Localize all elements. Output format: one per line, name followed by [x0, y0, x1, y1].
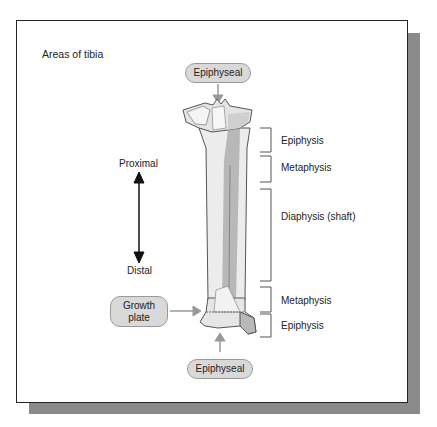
epiphyseal-callout-top-label: Epiphyseal	[194, 67, 243, 78]
region-label-epiphysis-bottom: Epiphysis	[281, 320, 324, 331]
distal-label: Distal	[127, 265, 152, 276]
region-label-metaphysis-bottom: Metaphysis	[281, 295, 332, 306]
region-label-metaphysis-top: Metaphysis	[281, 162, 332, 173]
proximal-label: Proximal	[119, 158, 158, 169]
epiphyseal-callout-bottom-label: Epiphyseal	[196, 363, 245, 374]
growth-plate-callout: Growth plate	[110, 296, 168, 327]
diagram-title: Areas of tibia	[42, 48, 103, 60]
double-arrow-icon	[134, 172, 144, 263]
epiphyseal-callout-bottom: Epiphyseal	[187, 359, 253, 379]
growth-plate-label-line2: plate	[111, 312, 167, 324]
region-label-epiphysis-top: Epiphysis	[281, 135, 324, 146]
region-brackets	[260, 128, 271, 337]
epiphyseal-callout-top: Epiphyseal	[185, 63, 251, 83]
tibia-bone	[183, 99, 256, 334]
growth-plate-label-line1: Growth	[111, 300, 167, 312]
region-label-diaphysis: Diaphysis (shaft)	[281, 211, 355, 222]
